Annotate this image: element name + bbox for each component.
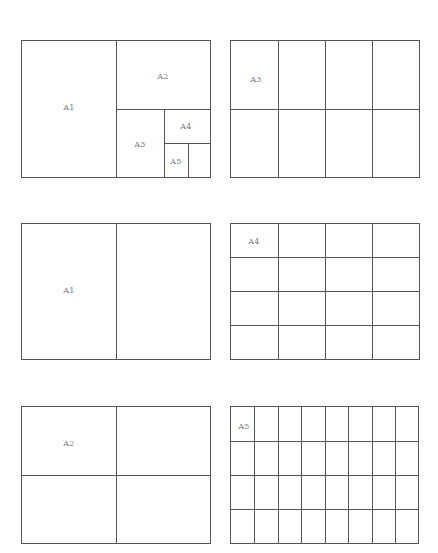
label-a1: A1 [63, 103, 74, 112]
grid-hline [231, 257, 419, 258]
panel-a4-grid: A4 [230, 223, 420, 360]
grid-hline [231, 325, 419, 326]
panel-a5-grid: A5 [230, 406, 419, 544]
label-a5: A5 [170, 157, 181, 166]
grid-vline [116, 224, 117, 359]
grid-hline [231, 441, 418, 442]
label-a4: A4 [248, 237, 259, 246]
label-a4: A4 [180, 122, 191, 131]
divider-a4 [164, 143, 210, 144]
panel-a3-grid: A3 [230, 40, 420, 178]
divider-a5 [188, 143, 189, 177]
panel-a2-grid: A2 [21, 406, 211, 544]
panel-overview: A1 A2 A3 A4 A5 [21, 40, 211, 178]
label-a3: A3 [250, 75, 261, 84]
grid-hline [231, 291, 419, 292]
grid-hline [231, 475, 418, 476]
grid-hline [231, 509, 418, 510]
divider-a2 [116, 109, 210, 110]
label-a3: A3 [134, 140, 145, 149]
grid-hline [231, 109, 419, 110]
grid-hline [22, 475, 210, 476]
label-a2: A2 [157, 72, 168, 81]
label-a2: A2 [63, 439, 74, 448]
label-a5: A5 [238, 422, 249, 431]
panel-a1-grid: A1 [21, 223, 211, 360]
label-a1: A1 [63, 286, 74, 295]
